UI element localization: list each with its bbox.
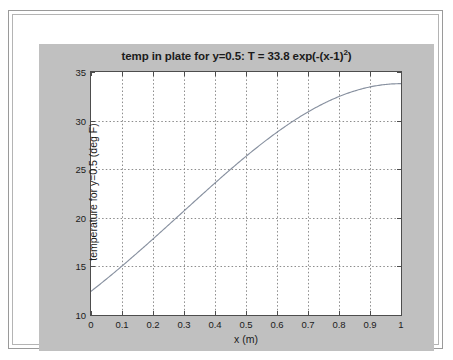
axis-tick-marks (91, 72, 401, 315)
y-tick-label: 10 (75, 310, 86, 321)
x-tick-label: 0.4 (208, 319, 221, 330)
x-tick-label: 0 (88, 319, 93, 330)
plot-svg (91, 72, 401, 315)
x-axis-label: x (m) (90, 333, 402, 345)
y-tick-label: 30 (75, 115, 86, 126)
plot-area[interactable] (90, 71, 402, 316)
y-axis-tick-labels: 101520253035 (58, 71, 86, 316)
x-tick-label: 1 (398, 319, 403, 330)
plot-inner (91, 72, 401, 315)
x-tick-label: 0.2 (146, 319, 159, 330)
x-tick-label: 0.8 (332, 319, 345, 330)
y-tick-label: 20 (75, 212, 86, 223)
y-tick-label: 15 (75, 261, 86, 272)
y-tick-label: 35 (75, 67, 86, 78)
gridlines-vertical (123, 72, 371, 315)
y-axis-label: temperature for y=0.5 (deg F) (87, 70, 99, 315)
x-tick-label: 0.7 (301, 319, 314, 330)
x-tick-label: 0.5 (239, 319, 252, 330)
chart-title-text: temp in plate for y=0.5: T = 33.8 exp(-(… (122, 50, 344, 62)
chart-title: temp in plate for y=0.5: T = 33.8 exp(-(… (39, 50, 434, 62)
chart-title-suffix: ) (348, 50, 352, 62)
x-tick-label: 0.6 (270, 319, 283, 330)
x-tick-label: 0.1 (115, 319, 128, 330)
x-axis-tick-labels: 00.10.20.30.40.50.60.70.80.91 (90, 319, 402, 333)
y-tick-label: 25 (75, 164, 86, 175)
x-tick-label: 0.3 (177, 319, 190, 330)
document-frame: temp in plate for y=0.5: T = 33.8 exp(-(… (8, 10, 443, 349)
x-tick-label: 0.9 (363, 319, 376, 330)
figure-panel: temp in plate for y=0.5: T = 33.8 exp(-(… (39, 44, 434, 351)
